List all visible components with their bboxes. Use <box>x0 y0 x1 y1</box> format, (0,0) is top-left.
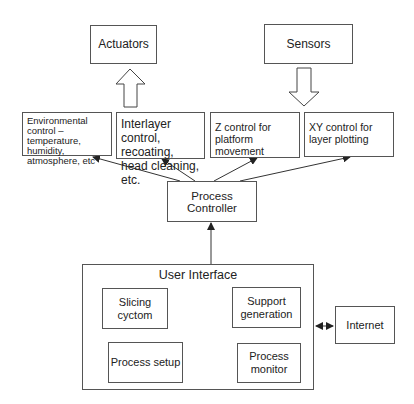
z-control-box: Z control for platform movement <box>210 112 300 158</box>
z-control-label: Z control for platform movement <box>215 121 295 157</box>
environmental-control-label: Environmental control – temperature, hum… <box>27 116 108 166</box>
process-monitor-box: Process monitor <box>237 343 301 383</box>
interlayer-control-box: Interlayer control, recoating, head clea… <box>116 112 205 159</box>
slicing-system-label: Slicing cyctom <box>112 296 158 322</box>
hollow-down-arrow <box>289 68 319 106</box>
process-monitor-label: Process monitor <box>244 350 294 376</box>
process-controller-box: Process Controller <box>167 181 257 222</box>
user-interface-title: User Interface <box>83 268 313 282</box>
xy-control-label: XY control for layer plotting <box>309 121 389 145</box>
interlayer-control-label: Interlayer control, recoating, head clea… <box>121 117 200 187</box>
internet-label: Internet <box>346 319 383 332</box>
internet-box: Internet <box>335 306 395 344</box>
slicing-system-box: Slicing cyctom <box>102 288 168 329</box>
xy-control-box: XY control for layer plotting <box>304 112 394 157</box>
environmental-control-box: Environmental control – temperature, hum… <box>22 112 112 156</box>
support-generation-label: Support generation <box>238 295 296 321</box>
actuators-box: Actuators <box>90 25 157 64</box>
user-interface-box: User Interface Slicing cyctom Support ge… <box>82 264 314 390</box>
actuators-label: Actuators <box>98 38 149 51</box>
hollow-up-arrow <box>116 69 145 107</box>
sensors-box: Sensors <box>264 24 353 64</box>
process-setup-label: Process setup <box>111 356 181 369</box>
process-setup-box: Process setup <box>108 342 183 383</box>
process-controller-label: Process Controller <box>168 190 256 214</box>
support-generation-box: Support generation <box>232 287 301 328</box>
sensors-label: Sensors <box>286 38 330 51</box>
